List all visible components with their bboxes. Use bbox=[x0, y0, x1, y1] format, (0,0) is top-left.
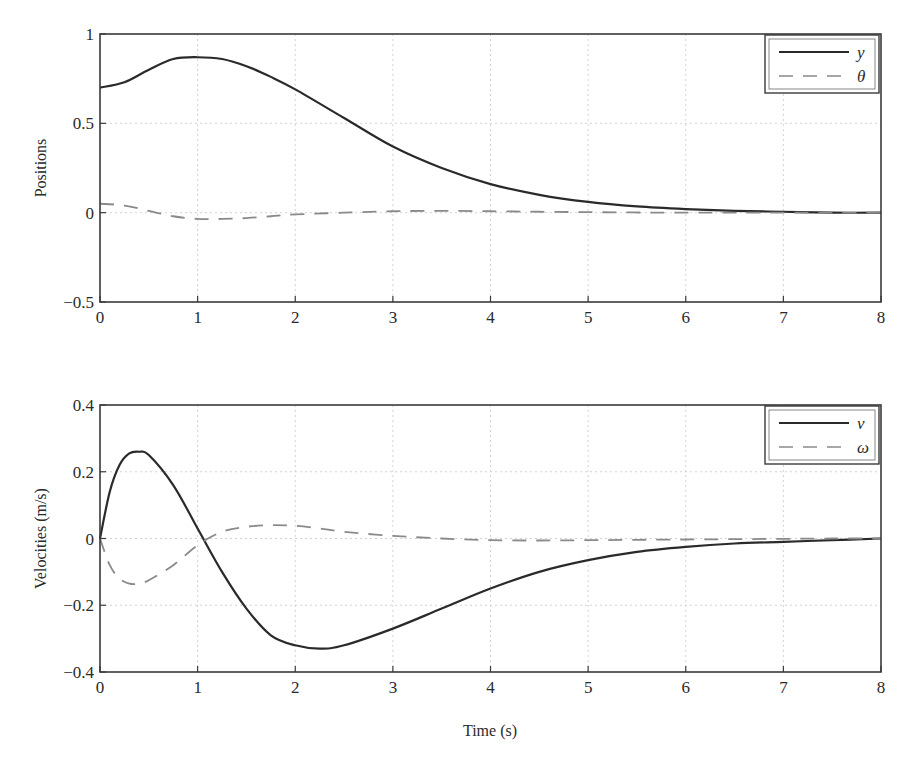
x-tick-label: 0 bbox=[96, 678, 105, 697]
y-tick-label: 0.2 bbox=[73, 463, 94, 482]
x-tick-label: 1 bbox=[193, 678, 202, 697]
velocities-ticks: 0123456780.40.20−0.2−0.4 bbox=[63, 396, 885, 697]
x-tick-label: 5 bbox=[584, 308, 593, 327]
x-tick-label: 2 bbox=[291, 308, 300, 327]
x-tick-label: 8 bbox=[877, 678, 886, 697]
legend-label: v bbox=[857, 414, 865, 433]
x-tick-label: 0 bbox=[96, 308, 105, 327]
x-tick-label: 8 bbox=[877, 308, 886, 327]
y-tick-label: 0 bbox=[86, 204, 95, 223]
y-tick-label: 0 bbox=[86, 530, 95, 549]
positions-y-axis-label: Positions bbox=[32, 139, 49, 198]
x-tick-label: 5 bbox=[584, 678, 593, 697]
time-x-axis-label: Time (s) bbox=[463, 722, 517, 740]
legend-label: ω bbox=[857, 438, 869, 457]
x-tick-label: 1 bbox=[193, 308, 202, 327]
velocities-legend: vω bbox=[765, 406, 879, 464]
y-tick-label: −0.2 bbox=[63, 596, 94, 615]
legend-label: θ bbox=[857, 67, 865, 86]
x-tick-label: 2 bbox=[291, 678, 300, 697]
positions-panel: 01234567810.50−0.5 Positions yθ bbox=[32, 25, 885, 327]
positions-grid bbox=[100, 34, 881, 302]
velocities-panel: 0123456780.40.20−0.2−0.4 Velocities (m/s… bbox=[32, 396, 885, 697]
velocities-y-axis-label: Velocities (m/s) bbox=[32, 488, 50, 589]
x-tick-label: 3 bbox=[389, 678, 398, 697]
y-tick-label: −0.4 bbox=[63, 663, 94, 682]
x-tick-label: 4 bbox=[486, 678, 495, 697]
y-tick-label: −0.5 bbox=[63, 293, 94, 312]
x-tick-label: 6 bbox=[682, 678, 691, 697]
positions-legend: yθ bbox=[765, 35, 879, 93]
positions-ticks: 01234567810.50−0.5 bbox=[63, 25, 885, 327]
y-tick-label: 0.4 bbox=[73, 396, 95, 415]
legend-label: y bbox=[855, 43, 865, 62]
x-tick-label: 3 bbox=[389, 308, 398, 327]
y-tick-label: 0.5 bbox=[73, 114, 94, 133]
x-tick-label: 4 bbox=[486, 308, 495, 327]
chart-canvas: 01234567810.50−0.5 Positions yθ 01234567… bbox=[0, 0, 911, 761]
x-tick-label: 7 bbox=[779, 308, 788, 327]
x-tick-label: 7 bbox=[779, 678, 788, 697]
x-tick-label: 6 bbox=[682, 308, 691, 327]
y-tick-label: 1 bbox=[86, 25, 95, 44]
